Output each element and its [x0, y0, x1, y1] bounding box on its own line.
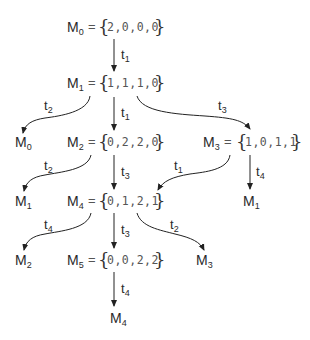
edge-m3-m4: t1 [158, 155, 230, 190]
svg-text:}: } [154, 249, 165, 270]
svg-text:1,1,1,0: 1,1,1,0 [107, 76, 159, 90]
leaf-m1-left: M1 [15, 193, 32, 211]
edge-m5-m4: t4 [114, 272, 130, 306]
svg-text:}: } [291, 131, 302, 152]
edge-m0-m1: t1 [114, 39, 130, 71]
node-m2: M2 = { 0,2,2,0 } [67, 131, 165, 152]
svg-text:M0: M0 [67, 19, 84, 37]
svg-text:}: } [154, 190, 165, 211]
svg-text:=: = [88, 193, 96, 208]
node-m3: M3 = { 1,0,1,1 } [203, 131, 302, 152]
svg-text:M3: M3 [203, 134, 220, 152]
leaf-m2: M2 [15, 252, 32, 270]
svg-text:M4: M4 [67, 193, 84, 211]
svg-text:}: } [154, 16, 165, 37]
svg-text:=: = [88, 75, 96, 90]
svg-text:=: = [224, 134, 232, 149]
reachability-tree-diagram: M0 = { 2,0,0,0 } M1 = { 1,1,1,0 } M2 = {… [0, 0, 310, 340]
svg-text:}: } [154, 131, 165, 152]
leaf-m3: M3 [196, 252, 213, 270]
svg-text:M1: M1 [67, 75, 84, 93]
svg-text:0,2,2,0: 0,2,2,0 [107, 135, 159, 149]
svg-text:t1: t1 [121, 105, 130, 122]
svg-text:t1: t1 [121, 47, 130, 64]
node-m4: M4 = { 0,1,2,1 } [67, 190, 165, 211]
edge-m2-m1: t2 [24, 155, 91, 191]
edge-m1-m2: t1 [114, 97, 130, 130]
svg-text:t4: t4 [44, 217, 53, 234]
svg-text:t2: t2 [44, 98, 53, 115]
svg-text:=: = [88, 252, 96, 267]
svg-text:t3: t3 [218, 98, 227, 115]
svg-text:M5: M5 [67, 252, 84, 270]
svg-text:t2: t2 [44, 158, 53, 175]
svg-text:=: = [88, 134, 96, 149]
svg-text:}: } [154, 72, 165, 93]
edge-m2-m4: t3 [114, 155, 130, 189]
edge-m4-m5: t3 [114, 213, 130, 248]
svg-text:2,0,0,0: 2,0,0,0 [107, 20, 159, 34]
svg-text:=: = [88, 19, 96, 34]
leaf-m4: M4 [110, 310, 127, 328]
svg-text:t4: t4 [256, 164, 265, 181]
edge-m1-m3: t3 [137, 96, 250, 129]
node-m0: M0 = { 2,0,0,0 } [67, 16, 165, 37]
svg-text:0,1,2,1: 0,1,2,1 [107, 194, 159, 208]
edge-m4-m3: t2 [137, 213, 204, 250]
svg-text:0,0,2,2: 0,0,2,2 [107, 253, 159, 267]
node-m1: M1 = { 1,1,1,0 } [67, 72, 165, 93]
svg-text:t3: t3 [121, 164, 130, 181]
edge-m3-m1: t4 [250, 155, 265, 189]
node-m5: M5 = { 0,0,2,2 } [67, 249, 165, 270]
leaf-m1-right: M1 [243, 193, 260, 211]
svg-text:t3: t3 [121, 222, 130, 239]
svg-text:1,0,1,1: 1,0,1,1 [245, 135, 297, 149]
edge-m1-m0: t2 [23, 96, 90, 133]
svg-text:t2: t2 [170, 217, 179, 234]
svg-text:M2: M2 [67, 134, 84, 152]
svg-text:t4: t4 [121, 281, 130, 298]
edge-m4-m2: t4 [24, 213, 91, 250]
svg-text:t1: t1 [174, 158, 183, 175]
leaf-m0: M0 [15, 134, 32, 152]
